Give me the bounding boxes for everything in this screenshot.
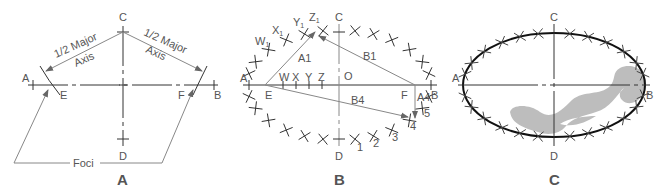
- label-e: E: [265, 89, 272, 101]
- label-c: C: [550, 11, 558, 23]
- arc-mark: [299, 132, 311, 139]
- label-a: A: [22, 72, 30, 84]
- arc-mark: [636, 100, 637, 114]
- arc-mark: [385, 37, 398, 42]
- panel-a: C D A B E F 1/2 Major Axis 1/2 Major Axi…: [14, 11, 221, 188]
- arc-mark: [301, 28, 308, 40]
- label-5: 5: [424, 107, 430, 119]
- label-a: A: [452, 72, 460, 84]
- label-e: E: [60, 89, 67, 101]
- label-a4: A4: [417, 91, 430, 103]
- label-c: C: [119, 11, 127, 23]
- arc-mark: [465, 106, 479, 107]
- label-1: 1: [357, 141, 363, 153]
- label-3: 3: [392, 131, 398, 143]
- label-w: W: [279, 71, 290, 83]
- label-z: Z: [318, 71, 325, 83]
- label-d: D: [550, 150, 558, 162]
- label-b: B: [646, 89, 653, 101]
- label-4: 4: [410, 120, 416, 132]
- arc-mark: [368, 30, 380, 37]
- arc-mark: [318, 135, 329, 144]
- arc-mark: [243, 93, 256, 99]
- label-w1: W1: [255, 35, 269, 48]
- label-y1: Y1: [293, 16, 304, 29]
- arc-mark: [319, 25, 328, 36]
- arc-mark: [471, 56, 472, 70]
- label-b: B: [214, 89, 221, 101]
- label-foci: Foci: [73, 157, 94, 169]
- french-curve: [510, 66, 646, 134]
- arc-e: [40, 66, 60, 95]
- arc-mark: [423, 71, 436, 77]
- label-c: C: [335, 11, 343, 23]
- label-a: A: [240, 72, 248, 84]
- label-z1: Z1: [309, 11, 320, 24]
- label-d: D: [335, 150, 343, 162]
- panel-caption-a: A: [117, 171, 128, 188]
- label-f: F: [178, 89, 185, 101]
- arc-mark: [280, 127, 293, 132]
- label-d: D: [119, 150, 127, 162]
- segment-b4: [265, 85, 408, 117]
- label-f: F: [401, 89, 408, 101]
- arc-mark: [284, 34, 289, 47]
- label-half-major-left-2: Axis: [72, 49, 96, 69]
- label-o: O: [344, 70, 353, 82]
- label-y: Y: [305, 71, 313, 83]
- label-2: 2: [373, 137, 379, 149]
- foci-leader-e: [14, 90, 48, 163]
- arc-mark: [350, 26, 361, 35]
- arc-mark: [630, 62, 644, 63]
- label-x1: X1: [272, 24, 283, 37]
- ellipse-construction-figure: C D A B E F 1/2 Major Axis 1/2 Major Axi…: [0, 0, 665, 194]
- label-b1: B1: [363, 50, 376, 62]
- panel-b: C D A B O E F W X Y Z W1 X1 Y1 Z1 A1 B1 …: [240, 11, 438, 188]
- label-a1: A1: [298, 52, 311, 64]
- label-x: X: [292, 71, 300, 83]
- panel-caption-b: B: [334, 171, 345, 188]
- label-b: B: [431, 89, 438, 101]
- panel-caption-c: C: [549, 171, 560, 188]
- panel-c: C D A B C: [452, 11, 653, 188]
- label-b4: B4: [351, 94, 364, 106]
